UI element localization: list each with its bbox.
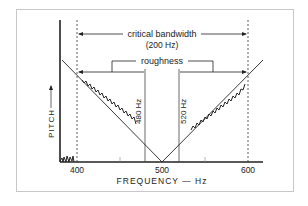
roughness-bracket-left [112,61,136,72]
roughness-noise-left [82,80,136,124]
x-axis-label: FREQUENCY — Hz [117,176,208,186]
arrowhead-right [242,32,247,36]
roughness-label: roughness [141,56,184,66]
x-tick-label-400: 400 [70,165,84,175]
roughness-noise-right [191,84,245,130]
label-520hz: 520 Hz [179,99,188,124]
y-axis-label: PITCH [47,109,56,138]
x-tick-label-600: 600 [241,165,255,175]
x-tick-label-500: 500 [155,165,169,175]
critical-bandwidth-diagram: critical bandwidth (200 Hz) roughness 48… [0,0,308,206]
arrowhead-rl [78,70,83,74]
arrowhead-left [78,32,83,36]
critical-bandwidth-label: critical bandwidth [127,29,196,39]
critical-bandwidth-value: (200 Hz) [146,40,179,50]
arrowhead-rr [242,70,247,74]
y-arrowhead [49,85,53,90]
roughness-bracket-right [188,61,213,72]
pitch-v-curve [62,60,263,162]
origin-noise [60,156,74,162]
label-480hz: 480 Hz [134,99,143,124]
